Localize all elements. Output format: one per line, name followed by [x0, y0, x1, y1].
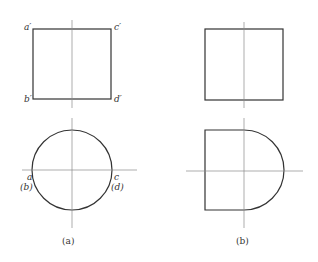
- caption-a: (a): [62, 236, 74, 246]
- figure-b-front-view: [205, 22, 283, 108]
- label-c: c: [114, 172, 119, 182]
- label-d-hidden: (d): [111, 182, 124, 192]
- figure-b-top-view: [186, 118, 303, 228]
- label-a: a: [27, 172, 32, 182]
- label-d-prime: d′: [114, 94, 122, 104]
- top-view-half-round-b: [205, 130, 284, 210]
- label-a-prime: a′: [24, 22, 31, 32]
- label-b-prime: b′: [24, 94, 32, 104]
- label-b-hidden: (b): [20, 182, 33, 192]
- figure-a-top-view: a (b) c (d): [20, 118, 137, 228]
- caption-b: (b): [236, 236, 249, 246]
- figure-a-front-view: a′ c′ b′ d′: [24, 20, 122, 108]
- label-c-prime: c′: [114, 22, 121, 32]
- projection-diagram: a′ c′ b′ d′ a (b) c (d) (a) (b): [0, 0, 318, 262]
